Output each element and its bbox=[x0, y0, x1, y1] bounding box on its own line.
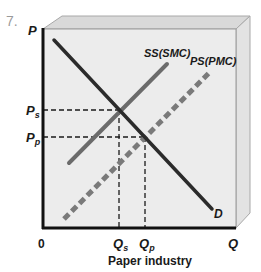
question-number: 7. bbox=[6, 13, 18, 29]
qs-label: Qs bbox=[113, 236, 128, 253]
x-axis-label: Q bbox=[228, 236, 238, 251]
origin-label: 0 bbox=[38, 237, 45, 251]
demand-label: D bbox=[214, 207, 223, 221]
private-supply-label: PS(PMC) bbox=[190, 55, 237, 67]
supply-demand-diagram: 7. P Q 0 Ps Pp Qs Qp SS(SMC) PS(PMC) D P… bbox=[0, 0, 261, 272]
x-caption: Paper industry bbox=[108, 254, 192, 268]
panel-side-face bbox=[236, 16, 250, 228]
qp-label: Qp bbox=[139, 236, 155, 253]
ps-label: Ps bbox=[26, 103, 40, 120]
panel-top-face bbox=[43, 16, 250, 29]
social-supply-label: SS(SMC) bbox=[144, 47, 191, 59]
pp-label: Pp bbox=[26, 130, 41, 147]
y-axis-label: P bbox=[28, 23, 37, 38]
